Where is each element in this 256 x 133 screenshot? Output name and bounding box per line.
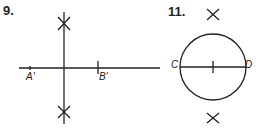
geometry-drawing [0,0,256,133]
